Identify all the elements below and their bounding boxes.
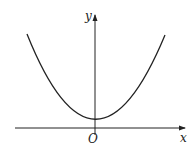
x-axis-label: x: [180, 131, 187, 145]
parabola-diagram: y O x: [0, 0, 195, 151]
parabola-curve: [27, 34, 165, 119]
origin-label: O: [88, 132, 98, 146]
y-axis-label: y: [84, 9, 92, 23]
